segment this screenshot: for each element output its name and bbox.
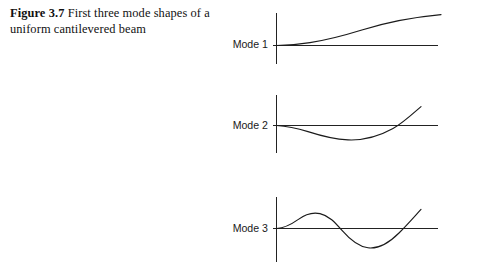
mode-label-3: Mode 3	[198, 222, 268, 234]
mode-curve-1	[277, 15, 442, 46]
figure-caption-label: Figure 3.7	[10, 6, 64, 20]
mode-shape-plot-3	[265, 190, 450, 276]
mode-curve-2	[277, 107, 422, 140]
mode-label-2: Mode 2	[198, 119, 268, 131]
mode-shape-plot-2	[265, 88, 450, 168]
figure-caption: Figure 3.7 First three mode shapes of a …	[10, 6, 215, 37]
mode-shape-plot-1	[265, 6, 450, 72]
figure-root: Figure 3.7 First three mode shapes of a …	[0, 0, 477, 279]
mode-label-1: Mode 1	[198, 38, 268, 50]
